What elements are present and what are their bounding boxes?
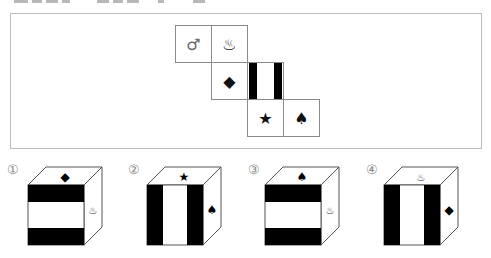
black-stripe [249,63,257,99]
option-cube-1[interactable]: ◆ ♨ [28,167,104,247]
option-label-2[interactable]: ② [128,162,140,177]
net-cell-male: ♂ [175,25,212,63]
diamond-icon: ◆ [60,170,70,184]
option-label-3[interactable]: ③ [248,162,260,177]
male-icon: ♂ [186,35,200,54]
spade-icon: ♠ [297,170,308,184]
spade-icon: ♠ [294,109,308,128]
option-cube-3[interactable]: ♠ ♨ [265,167,341,247]
option-cube-2[interactable]: ★ ♠ [147,167,223,247]
diamond-icon: ◆ [223,72,235,91]
net-cell-spade: ♠ [283,99,320,137]
hot-spring-icon: ♨ [417,172,426,183]
option-label-1[interactable]: ① [7,162,19,177]
clipped-question-text [14,0,224,4]
net-cell-diamond: ◆ [211,62,248,100]
net-cell-hot-spring: ♨ [211,25,248,63]
net-cell-star: ★ [247,99,284,137]
black-stripe [274,63,282,99]
hot-spring-icon: ♨ [326,205,335,216]
hot-spring-icon: ♨ [222,35,236,54]
option-cube-4[interactable]: ♨ ◆ [384,167,460,247]
diamond-icon: ◆ [444,203,454,217]
spade-icon: ♠ [207,203,218,217]
hot-spring-icon: ♨ [89,205,98,216]
net-cell-stripes [247,62,284,100]
star-icon: ★ [179,170,190,184]
option-label-4[interactable]: ④ [366,162,378,177]
star-icon: ★ [258,109,272,128]
